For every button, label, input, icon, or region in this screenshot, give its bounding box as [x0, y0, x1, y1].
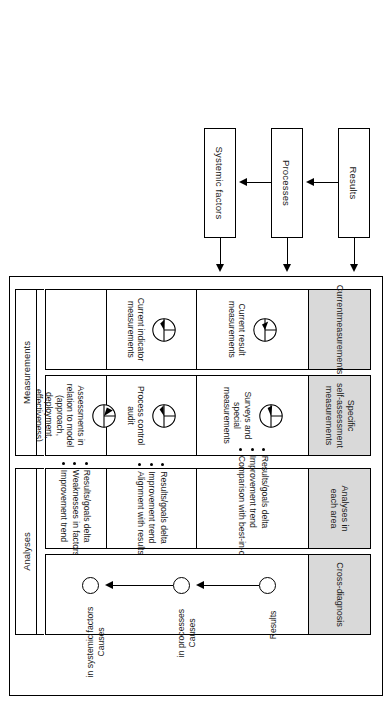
cell-label: Assessments in relation to model (approa…: [33, 380, 86, 451]
bullet-list: Results/goals delta Improvement trend Al…: [134, 462, 169, 555]
node-connector-processes-to-systemic: [111, 585, 173, 586]
list-item: Results/goals delta: [81, 461, 93, 556]
gauge-icon: [253, 317, 279, 343]
group-label-measurements: Measurements: [15, 289, 37, 456]
node-connector-results-to-processes-head: [196, 581, 204, 589]
matrix-column-current-measurements: Current measurements Current result meas…: [45, 289, 371, 370]
flow-arrow-processes-line: [287, 238, 288, 266]
cell-label: Surveys and special measurements: [221, 380, 253, 451]
flow-arrow-results-line: [354, 238, 355, 266]
flow-arrow-results-to-processes-line: [312, 182, 338, 183]
bullet-list: Results/goals delta Weaknesses in factor…: [58, 461, 93, 556]
column-header-line-2: self-assessment: [335, 383, 345, 448]
group-label-analyses-text: Analyses: [21, 532, 32, 571]
list-item: Results/goals delta: [258, 447, 270, 571]
group-bracket-analyses-stem-right: [36, 634, 44, 635]
node-results: [259, 577, 276, 594]
gauge-icon: [152, 317, 178, 343]
matrix-column-cross-diagnosis: Cross-diagnosis Results in processes Cau…: [45, 554, 371, 635]
matrix-column-specific-self-assessment: Specific self-assessment measurements Su…: [45, 375, 371, 456]
list-item: Improvement trend: [247, 447, 259, 571]
list-item: Improvement trend: [58, 461, 70, 556]
column-header-line-1: Cross-diagnosis: [334, 562, 345, 627]
column-header-analyses-in-each-area: Analyses in each area: [308, 469, 370, 548]
node-causes-in-systemic-factors: [82, 577, 99, 594]
gauge-icon: [91, 403, 117, 429]
node-connector-results-to-processes: [202, 585, 259, 586]
group-label-measurements-text: Measurements: [21, 341, 32, 404]
list-item: Improvement trend: [146, 462, 158, 555]
flow-box-processes-label: Processes: [282, 160, 293, 206]
flow-box-systemic-factors: Systemic factors: [204, 128, 236, 238]
cell-process-control-audit: Process control audit: [107, 376, 197, 455]
column-header-line-2: each area: [330, 488, 340, 528]
flow-box-processes: Processes: [271, 128, 303, 238]
flow-arrow-processes-to-systemic-head: [239, 178, 247, 186]
flow-arrow-results-to-processes-head: [306, 178, 314, 186]
flow-box-results: Results: [338, 128, 370, 238]
flow-arrow-processes-head: [284, 264, 292, 272]
cell-current-result-measurements: Current result measurements: [197, 290, 308, 369]
flow-arrow-systemic-line: [220, 238, 221, 266]
flow-box-results-label: Results: [349, 166, 360, 199]
column-header-current-measurements: Current measurements: [308, 290, 370, 369]
node-causes-in-processes-label: in processes Causes: [176, 595, 197, 671]
matrix-diagram: Results Processes Systemic factors Curre…: [0, 0, 392, 707]
flow-arrow-systemic-head: [217, 264, 225, 272]
node-connector-processes-to-systemic-head: [105, 581, 113, 589]
cell-current-measurements-empty: [44, 290, 107, 369]
bullet-list: Results/goals delta Improvement trend Co…: [235, 447, 270, 571]
list-item: Weaknesses in factors: [69, 461, 81, 556]
node-results-label: Results: [268, 595, 279, 655]
column-header-line-1: Analyses in: [341, 485, 351, 531]
matrix-column-analyses-in-each-area: Analyses in each area Results/goals delt…: [45, 468, 371, 549]
cell-analyses-systemic-factors: Results/goals delta Weaknesses in factor…: [44, 469, 107, 548]
group-bracket-analyses-stem-left: [36, 468, 44, 469]
cell-label: Process control audit: [126, 380, 147, 451]
gauge-icon: [258, 403, 284, 429]
gauge-icon: [152, 403, 178, 429]
group-bracket-measurements-stem-left: [36, 289, 44, 290]
cell-label: Current indicator measurements: [126, 294, 147, 365]
flow-arrow-processes-to-systemic-line: [245, 182, 271, 183]
cell-surveys-and-special-measurements: Surveys and special measurements: [197, 376, 308, 455]
group-label-analyses: Analyses: [15, 468, 37, 635]
figure-stage: Results Processes Systemic factors Curre…: [0, 0, 392, 707]
list-item: Results/goals delta: [157, 462, 169, 555]
list-item: Alignment with results: [134, 462, 146, 555]
node-causes-in-systemic-factors-label: in systemic factors Causes: [85, 595, 106, 689]
column-header-line-1: Specific: [346, 400, 356, 432]
column-header-specific-self-assessment: Specific self-assessment measurements: [308, 376, 370, 455]
group-bracket-measurements-stem-right: [36, 455, 44, 456]
cross-diagnosis-node-area: Results in processes Causes in systemic …: [44, 555, 308, 634]
cell-current-indicator-measurements: Current indicator measurements: [107, 290, 197, 369]
column-header-cross-diagnosis: Cross-diagnosis: [308, 555, 370, 634]
flow-box-systemic-factors-label: Systemic factors: [215, 147, 226, 220]
flow-arrow-results-head: [351, 264, 359, 272]
column-header-line-3: measurements: [324, 386, 334, 446]
list-item: Comparison with best-in-class: [235, 447, 247, 571]
cell-assessments-in-relation-to-model: Assessments in relation to model (approa…: [44, 376, 107, 455]
column-header-line-1: Current: [334, 285, 345, 315]
column-header-line-2: measurements: [334, 315, 345, 375]
cell-label: Current result measurements: [227, 294, 248, 365]
node-causes-in-processes: [173, 577, 190, 594]
cell-analyses-results: Results/goals delta Improvement trend Co…: [197, 469, 308, 548]
cell-analyses-processes: Results/goals delta Improvement trend Al…: [107, 469, 197, 548]
